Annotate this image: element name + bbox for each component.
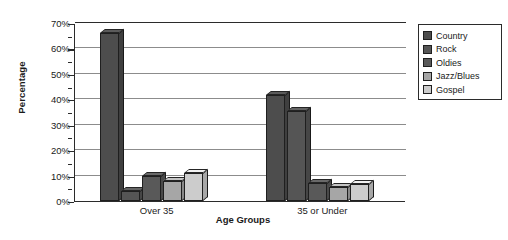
bar [329, 187, 348, 201]
legend-item-rock: Rock [423, 43, 501, 57]
legend-swatch-icon [423, 45, 432, 54]
y-axis-tick-label: 0% [36, 196, 70, 207]
legend-label: Jazz/Blues [436, 71, 480, 81]
bar-face [100, 33, 119, 201]
y-axis-minor-tick [68, 88, 72, 89]
bar [121, 191, 140, 201]
bar-face [142, 176, 161, 201]
legend-item-oldies: Oldies [423, 56, 501, 70]
bar [100, 33, 119, 201]
y-axis-minor-tick [68, 37, 72, 38]
bar [163, 181, 182, 201]
bar [142, 176, 161, 201]
gridline [75, 47, 406, 48]
bar-face [266, 95, 285, 201]
y-axis-tick-label: 70% [36, 18, 70, 29]
y-axis-tick-label: 30% [36, 120, 70, 131]
y-axis-minor-tick [68, 113, 72, 114]
y-axis-tick-label: 60% [36, 43, 70, 54]
gridline [75, 175, 406, 176]
bar [350, 184, 369, 201]
bar-face [287, 111, 306, 201]
bar-side [119, 29, 124, 201]
x-axis-tick-label: 35 or Under [267, 205, 377, 216]
y-axis-tick-label: 50% [36, 69, 70, 80]
bar-side [203, 169, 208, 201]
bar-face [308, 183, 327, 201]
legend-item-country: Country [423, 29, 501, 43]
gridline [75, 22, 406, 23]
bar [287, 111, 306, 201]
legend-swatch-icon [423, 72, 432, 81]
y-axis-title: Percentage [16, 43, 27, 133]
y-axis-tick-mark [68, 202, 74, 203]
legend: CountryRockOldiesJazz/BluesGospel [418, 24, 502, 100]
bar [308, 183, 327, 201]
gridline [75, 149, 406, 150]
gridline [75, 124, 406, 125]
bar-face [350, 184, 369, 201]
legend-item-gospel: Gospel [423, 83, 501, 97]
bar-face [121, 191, 140, 201]
y-axis-tick-label: 40% [36, 94, 70, 105]
y-axis-minor-tick [68, 62, 72, 63]
gridline [75, 98, 406, 99]
plot-area [74, 24, 405, 202]
gridline [75, 73, 406, 74]
bar-chart: Percentage Age Groups 0%10%20%30%40%50%6… [0, 0, 508, 240]
bar-face [184, 173, 203, 201]
legend-swatch-icon [423, 58, 432, 67]
legend-swatch-icon [423, 31, 432, 40]
legend-item-jazz-blues: Jazz/Blues [423, 70, 501, 84]
y-axis-minor-tick [68, 138, 72, 139]
legend-swatch-icon [423, 85, 432, 94]
legend-label: Gospel [436, 85, 465, 95]
y-axis-minor-tick [68, 189, 72, 190]
y-axis-tick-label: 20% [36, 145, 70, 156]
bar-face [329, 187, 348, 201]
bar [266, 95, 285, 201]
bar-face [163, 181, 182, 201]
y-axis-minor-tick [68, 164, 72, 165]
bar [184, 173, 203, 201]
legend-label: Oldies [436, 58, 462, 68]
x-axis-tick-label: Over 35 [102, 205, 212, 216]
legend-label: Rock [436, 44, 457, 54]
y-axis-tick-label: 10% [36, 171, 70, 182]
legend-label: Country [436, 31, 468, 41]
